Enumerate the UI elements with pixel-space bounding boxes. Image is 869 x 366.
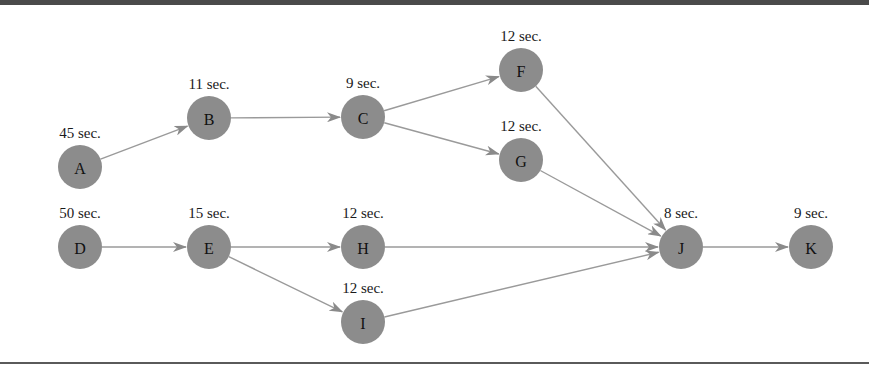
duration-label: 12 sec. xyxy=(500,118,542,134)
activity-network-diagram: A45 sec.B11 sec.C9 sec.F12 sec.G12 sec.D… xyxy=(0,0,869,366)
node-d: D50 sec. xyxy=(58,205,102,269)
node-f: F12 sec. xyxy=(499,28,543,92)
duration-label: 50 sec. xyxy=(59,205,101,221)
duration-label: 11 sec. xyxy=(188,76,229,92)
node-label: G xyxy=(515,153,527,170)
node-label: D xyxy=(74,240,86,257)
node-g: G12 sec. xyxy=(499,118,543,182)
node-label: A xyxy=(74,160,86,177)
edge-f-to-j xyxy=(536,86,666,230)
duration-label: 9 sec. xyxy=(346,75,380,91)
node-label: F xyxy=(517,63,526,80)
edge-e-to-i xyxy=(229,257,343,312)
node-i: I12 sec. xyxy=(341,280,385,344)
duration-label: 12 sec. xyxy=(500,28,542,44)
node-b: B11 sec. xyxy=(187,76,231,140)
edge-c-to-f xyxy=(384,77,499,111)
node-layer: A45 sec.B11 sec.C9 sec.F12 sec.G12 sec.D… xyxy=(58,28,833,344)
node-a: A45 sec. xyxy=(58,125,102,189)
duration-label: 12 sec. xyxy=(342,280,384,296)
node-label: E xyxy=(204,240,214,257)
node-k: K9 sec. xyxy=(789,205,833,269)
duration-label: 45 sec. xyxy=(59,125,101,141)
edge-g-to-j xyxy=(540,171,660,237)
edge-b-to-c xyxy=(231,117,340,118)
duration-label: 12 sec. xyxy=(342,205,384,221)
node-j: J8 sec. xyxy=(659,205,703,269)
duration-label: 15 sec. xyxy=(188,205,230,221)
node-h: H12 sec. xyxy=(341,205,385,269)
node-label: K xyxy=(805,240,817,257)
node-e: E15 sec. xyxy=(187,205,231,269)
node-label: I xyxy=(360,315,365,332)
edge-i-to-j xyxy=(384,252,658,317)
node-label: J xyxy=(678,240,684,257)
node-c: C9 sec. xyxy=(341,75,385,139)
node-label: B xyxy=(204,111,215,128)
node-label: H xyxy=(357,240,369,257)
duration-label: 8 sec. xyxy=(664,205,698,221)
edge-c-to-g xyxy=(384,123,499,154)
duration-label: 9 sec. xyxy=(794,205,828,221)
node-label: C xyxy=(358,110,369,127)
edge-a-to-b xyxy=(101,126,188,159)
